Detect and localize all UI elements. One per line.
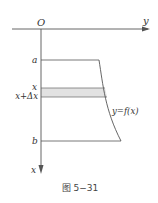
integral-diagram: O y a x x+Δx y=f(x) b x 图 5−31	[0, 0, 158, 203]
origin-label: O	[37, 17, 45, 28]
x-axis-label: x	[31, 165, 36, 175]
shaded-strip	[41, 88, 107, 97]
x-axis-arrow-icon	[39, 165, 44, 174]
y-axis-label: y	[142, 15, 149, 26]
b-label: b	[32, 136, 38, 146]
a-label: a	[32, 55, 37, 65]
figure-caption: 图 5−31	[62, 183, 99, 193]
curve-f	[99, 60, 121, 141]
y-axis-arrow-icon	[142, 27, 150, 32]
x-plus-dx-label: x+Δx	[15, 91, 38, 101]
curve-label: y=f(x)	[111, 106, 139, 116]
